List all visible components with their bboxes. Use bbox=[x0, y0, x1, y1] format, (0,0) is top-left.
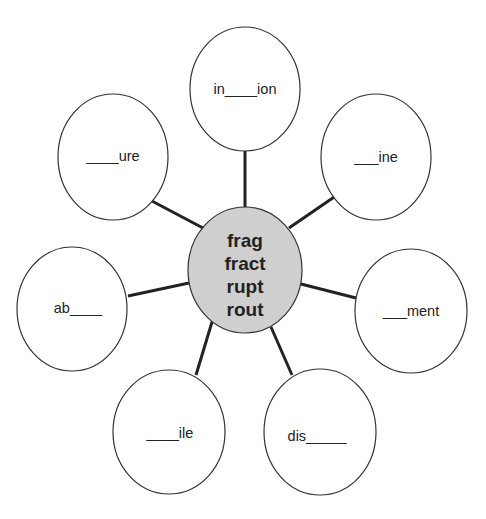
center-root-rupt: rupt bbox=[227, 276, 265, 297]
connector-upper-left bbox=[150, 200, 203, 228]
node-bottom-left: ____ile bbox=[113, 370, 225, 494]
center-node: frag fract rupt rout bbox=[188, 207, 302, 333]
connector-right bbox=[301, 284, 356, 298]
center-root-rout: rout bbox=[227, 299, 265, 320]
connector-bottom-right bbox=[271, 327, 292, 375]
node-left: ab____ bbox=[17, 247, 127, 371]
node-bottom-right: dis_____ bbox=[264, 369, 376, 495]
word-web-diagram: in____ion ___ine ___ment dis_____ ____il… bbox=[0, 0, 486, 519]
node-left-label: ab____ bbox=[54, 300, 103, 316]
connector-left bbox=[128, 283, 189, 296]
center-root-frag: frag bbox=[227, 230, 263, 251]
node-right: ___ment bbox=[355, 249, 467, 373]
node-upper-left: ____ure bbox=[58, 94, 168, 220]
node-bottom-left-label: ____ile bbox=[146, 425, 194, 441]
center-root-fract: fract bbox=[224, 253, 266, 274]
node-top-label: in____ion bbox=[214, 81, 277, 97]
connector-upper-right bbox=[289, 193, 340, 228]
connector-bottom-left bbox=[196, 322, 212, 375]
node-upper-right: ___ine bbox=[321, 94, 431, 220]
node-upper-left-label: ____ure bbox=[85, 148, 139, 164]
node-top: in____ion bbox=[190, 27, 300, 151]
node-right-label: ___ment bbox=[382, 303, 439, 319]
node-bottom-right-label: dis_____ bbox=[288, 428, 348, 444]
node-upper-right-label: ___ine bbox=[353, 149, 398, 165]
